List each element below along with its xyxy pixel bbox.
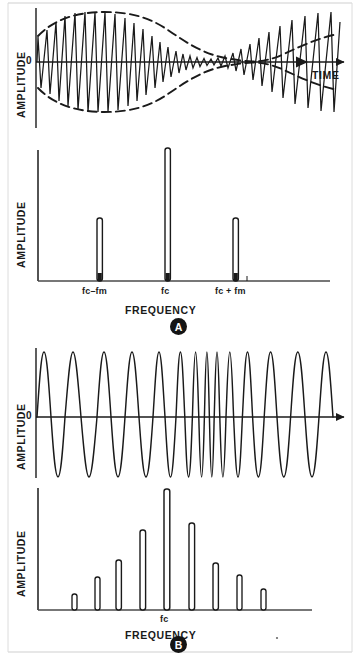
am-spectrum-x-axis-label: FREQUENCY [125,305,196,316]
fm-waveform-y-axis-label: AMPLITUDE [16,403,27,470]
am-envelope-lower [38,63,338,112]
fm-spectrum-tick-carrier: fc [160,615,168,624]
am-waveform-x-axis-label: TIME [312,70,339,81]
fm-spectral-line [95,577,100,610]
fm-waveform-origin-label: 0 [26,411,32,421]
fm-spectrum-plot [38,488,312,610]
am-waveform-y-axis-label: AMPLITUDE [16,51,27,118]
fm-spectral-line [261,589,266,610]
am-spectrum-y-axis-label: AMPLITUDE [16,201,27,268]
am-spectrum-tick-carrier: fc [161,287,169,296]
fm-spectral-line [72,594,77,610]
fm-carrier-wave [37,352,333,477]
fm-spectral-line [189,523,195,610]
fm-spectral-line-carrier [164,489,170,610]
modulation-comparison-figure: AMPLITUDE 0 TIME AMPLITUDE fc–fm fc fc +… [0,0,360,658]
fm-spectral-line [140,530,146,610]
am-spectrum-tick-lower-sideband: fc–fm [82,287,107,296]
am-spectral-line-upper-sideband [233,218,238,281]
am-spectral-line-carrier [165,148,170,281]
am-spectral-line-lower-sideband [97,218,102,281]
fm-waveform-plot [36,348,344,478]
fm-spectral-line [237,575,242,610]
fm-spectral-line [213,563,218,610]
am-spectrum-tick-upper-sideband: fc + fm [215,287,246,296]
panel-b-badge: B [170,636,187,653]
scan-artifact-dot [276,637,278,639]
am-spectrum-plot [38,148,330,281]
fm-spectral-line [116,560,121,610]
fm-spectrum-y-axis-label: AMPLITUDE [16,530,27,597]
panel-a-badge: A [170,318,187,335]
am-waveform-plot [36,8,344,128]
am-waveform-origin-label: 0 [26,56,32,66]
